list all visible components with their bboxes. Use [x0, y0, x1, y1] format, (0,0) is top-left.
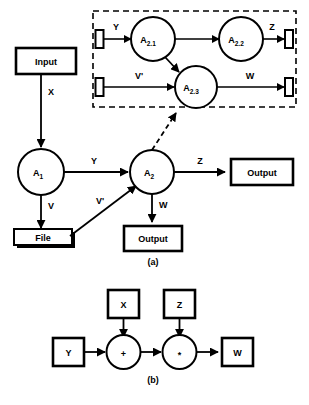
caption-a: (a) [148, 257, 159, 267]
edge-label-vprime-refine: V' [135, 71, 143, 81]
box-w-label: W [233, 348, 242, 358]
edge-label-v: V [48, 201, 54, 211]
op-times-label: * [178, 350, 182, 360]
edge-label-y: Y [91, 156, 97, 166]
edge-label-y-refine: Y [113, 22, 119, 32]
box-output-bottom-label: Output [138, 234, 168, 244]
figure-container: Y A2.1 A2.2 Z V' A2.3 W Inp [0, 0, 309, 405]
box-x-label: X [120, 300, 126, 310]
dataflow-diagram: Y A2.1 A2.2 Z V' A2.3 W Inp [0, 0, 309, 405]
box-file-label: File [35, 233, 51, 243]
edge-label-x: X [48, 87, 54, 97]
part-b-group: X Z Y + * W (b) [53, 290, 253, 385]
port-in-bottom [96, 78, 104, 96]
port-in-top [96, 30, 104, 48]
port-out-top [285, 30, 293, 48]
a2-refinement-link [152, 113, 176, 150]
op-plus-label: + [121, 349, 126, 359]
edge-label-w-refine: W [246, 71, 255, 81]
caption-b: (b) [147, 375, 159, 385]
box-output-right-label: Output [247, 168, 277, 178]
edge-label-z: Z [197, 156, 203, 166]
edge-label-vprime: V' [96, 196, 104, 206]
box-z-label: Z [177, 300, 183, 310]
edge-label-w: W [159, 200, 168, 210]
refinement-box-group: Y A2.1 A2.2 Z V' A2.3 W [93, 11, 296, 108]
box-input-top-label: Input [35, 57, 57, 67]
edge-a21-to-a23 [165, 57, 179, 72]
edge-label-z-refine: Z [269, 22, 275, 32]
box-y-label: Y [65, 348, 71, 358]
port-out-bottom [285, 78, 293, 96]
